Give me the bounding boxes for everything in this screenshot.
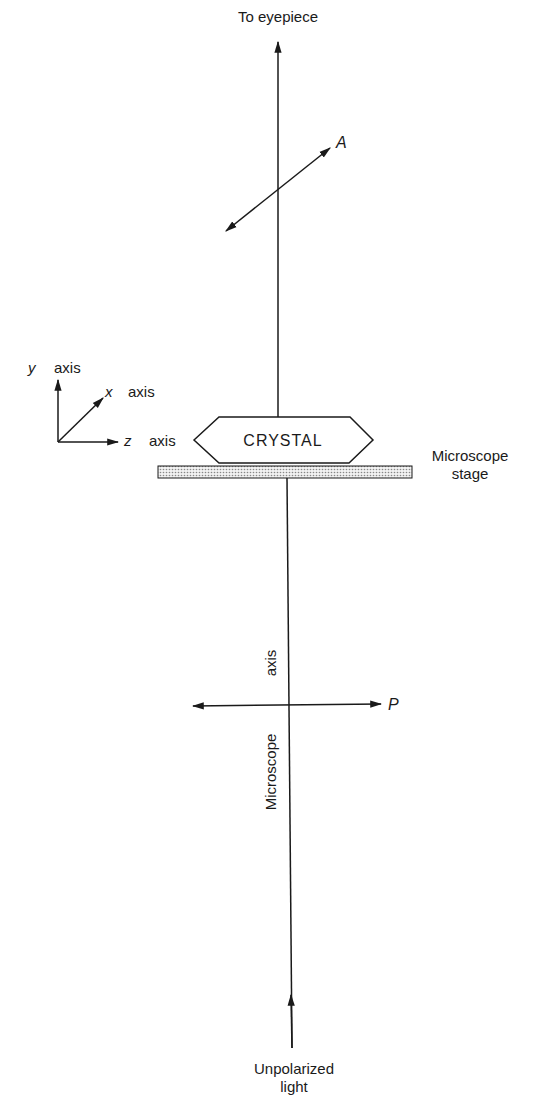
microscope-axis-line [287,478,292,1048]
microscope-diagram: To eyepiece A y axis x axis z axis CRYST… [0,0,541,1100]
microscope-axis-label-word1: Microscope [262,734,279,811]
crystal-label: CRYSTAL [243,432,322,449]
light-label-line1: Unpolarized [254,1060,334,1077]
polarizer-arrow [193,704,381,706]
microscope-stage [158,466,412,478]
x-axis-letter: x [104,383,113,400]
light-label-line2: light [280,1078,308,1095]
analyzer-label: A [335,134,347,151]
eyepiece-label: To eyepiece [238,8,318,25]
y-axis-word: axis [54,359,81,376]
x-axis-arrow [58,398,103,442]
incoming-light-arrow [291,995,292,1048]
microscope-axis-label-word2: axis [262,650,279,677]
z-axis-word: axis [149,432,176,449]
stage-label-line2: stage [452,465,489,482]
stage-label-line1: Microscope [432,447,509,464]
axis-triad: y axis x axis z axis [27,359,176,449]
polarizer-label: P [388,696,399,713]
x-axis-word: axis [128,383,155,400]
z-axis-letter: z [123,432,132,449]
y-axis-letter: y [27,359,37,376]
